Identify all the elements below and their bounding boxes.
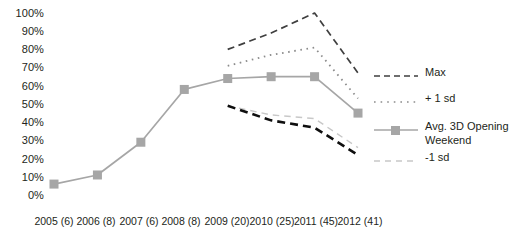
chart-legend: Max + 1 sd Avg. 3D Opening Weekend -1 sd bbox=[374, 66, 513, 177]
data-point-marker bbox=[50, 180, 59, 189]
data-point-marker bbox=[267, 72, 276, 81]
data-point-marker bbox=[223, 74, 232, 83]
legend-label: -1 sd bbox=[425, 151, 449, 165]
legend-label: + 1 sd bbox=[425, 92, 455, 106]
legend-label: Max bbox=[425, 66, 446, 80]
data-point-marker bbox=[93, 170, 102, 179]
chart-container: 100% 90% 80% 70% 60% 50% 40% 30% 20% 10%… bbox=[0, 0, 513, 233]
data-point-marker bbox=[136, 138, 145, 147]
series-line bbox=[228, 106, 358, 155]
legend-item-plus-1-sd: + 1 sd bbox=[374, 92, 513, 106]
light-dashed-line-swatch bbox=[374, 153, 418, 165]
legend-label: Avg. 3D Opening Weekend bbox=[425, 120, 509, 147]
legend-item-avg-3d-opening-weekend: Avg. 3D Opening Weekend bbox=[374, 120, 513, 147]
solid-marker-line-swatch bbox=[374, 122, 418, 134]
data-point-marker bbox=[310, 72, 319, 81]
legend-item-minus-1-sd: -1 sd bbox=[374, 151, 513, 165]
series-line bbox=[228, 48, 358, 99]
series-line bbox=[228, 13, 358, 73]
dotted-line-swatch bbox=[374, 94, 418, 106]
dashed-line-swatch bbox=[374, 68, 418, 80]
x-tick-label: 2012 (41) bbox=[316, 216, 404, 227]
series-line bbox=[54, 77, 358, 184]
data-point-marker bbox=[354, 109, 363, 118]
data-point-marker bbox=[180, 85, 189, 94]
legend-item-max: Max bbox=[374, 66, 513, 80]
